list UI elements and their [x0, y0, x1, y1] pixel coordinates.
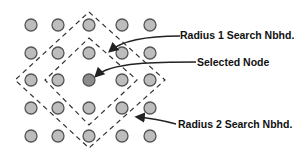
neighborhood-diagram — [0, 0, 296, 159]
grid-node — [52, 130, 64, 142]
grid-node — [52, 74, 64, 86]
grid-node — [116, 102, 128, 114]
grid-node — [144, 102, 156, 114]
grid-node — [144, 130, 156, 142]
grid-node — [116, 74, 128, 86]
grid-node — [83, 47, 95, 59]
grid-node — [52, 19, 64, 31]
grid-node — [144, 19, 156, 31]
grid-node — [83, 130, 95, 142]
grid-node — [25, 47, 37, 59]
grid-node — [144, 47, 156, 59]
grid-node — [25, 74, 37, 86]
grid-node — [116, 47, 128, 59]
grid-node — [25, 102, 37, 114]
grid-node — [116, 130, 128, 142]
radius2-label: Radius 2 Search Nbhd. — [178, 118, 292, 130]
selected-node-label: Selected Node — [197, 56, 269, 68]
selected-node — [83, 74, 95, 86]
grid-node — [116, 19, 128, 31]
grid-node — [25, 19, 37, 31]
grid-node — [52, 47, 64, 59]
grid-node — [83, 19, 95, 31]
grid-node — [83, 102, 95, 114]
radius2-arrow — [137, 117, 176, 124]
grid-node — [144, 74, 156, 86]
selected-arrow — [96, 62, 196, 76]
grid-node — [25, 130, 37, 142]
radius1-label: Radius 1 Search Nbhd. — [180, 29, 294, 41]
grid-node — [52, 102, 64, 114]
